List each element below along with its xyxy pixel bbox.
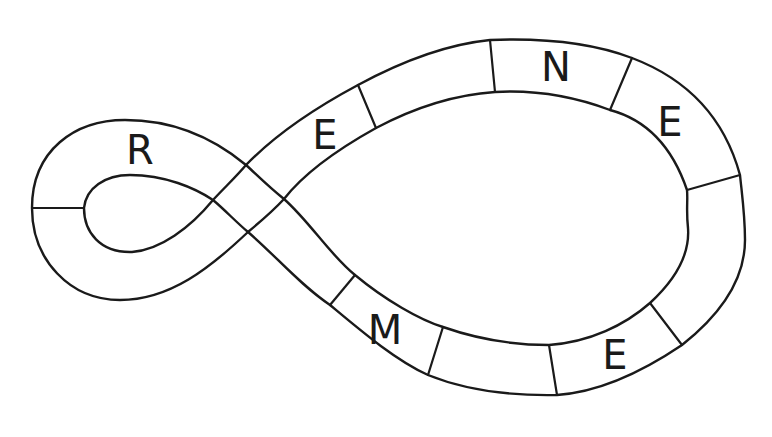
divider-lower-3	[549, 345, 557, 395]
cell-letter-e-2: E	[657, 99, 682, 145]
cell-letter-n: N	[541, 44, 571, 90]
divider-lower-1	[330, 275, 355, 305]
cell-letter-m: M	[368, 307, 403, 353]
cell-letter-e-1: E	[312, 112, 337, 158]
track-edge-inner-left-outer-right	[84, 40, 745, 396]
cell-letter-e-3: E	[602, 332, 627, 378]
divider-upper-3	[610, 58, 632, 110]
divider-upper-2	[490, 40, 495, 92]
divider-lower-2	[428, 327, 443, 375]
cell-letter-r: R	[126, 127, 154, 173]
divider-right-2	[650, 303, 682, 345]
divider-upper-1	[358, 85, 376, 128]
figure-eight-track: R E N E E M	[0, 0, 772, 437]
divider-right-1	[687, 175, 740, 190]
